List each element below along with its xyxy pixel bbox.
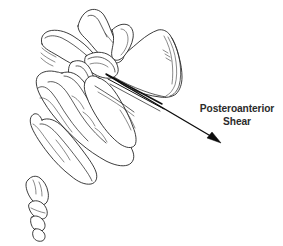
shear-label: Posteroanterior Shear [192, 102, 282, 128]
anatomical-figure: Posteroanterior Shear [0, 0, 283, 246]
coccyx [26, 176, 48, 241]
shear-label-line-2: Shear [192, 115, 282, 128]
shear-label-line-1: Posteroanterior [192, 102, 282, 115]
